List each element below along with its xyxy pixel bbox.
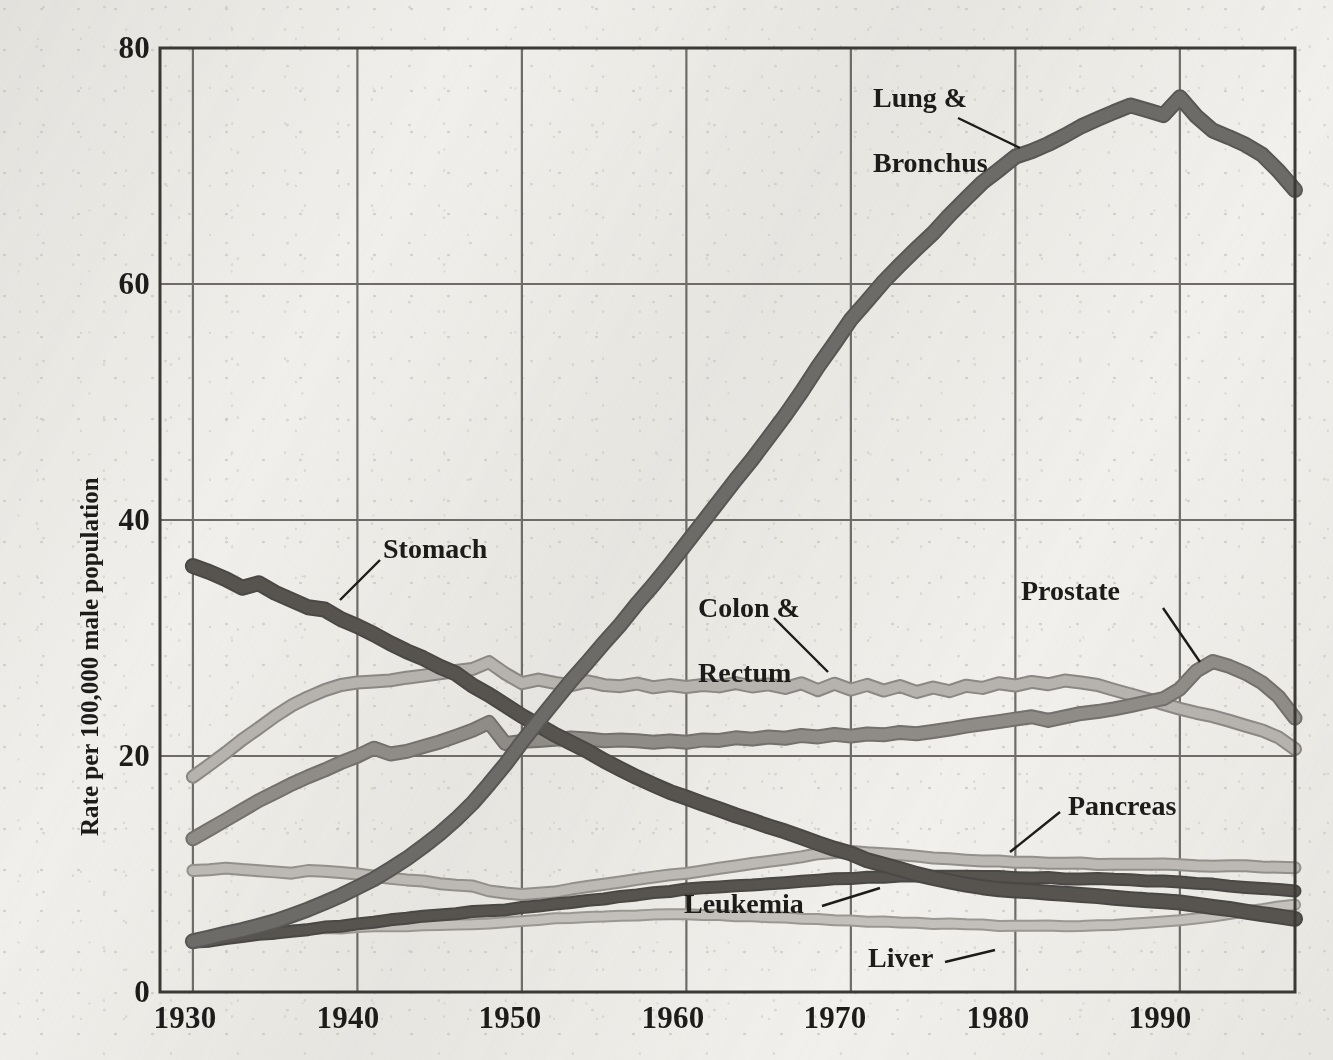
x-tick-1950: 1950 xyxy=(445,1000,575,1036)
series-label-pancreas: Pancreas xyxy=(1068,790,1176,822)
series-label-liver: Liver xyxy=(868,942,933,974)
y-tick-20: 20 xyxy=(60,738,150,774)
cancer-death-rate-line-chart: 80 60 40 20 0 1930 1940 1950 1960 1970 1… xyxy=(0,0,1333,1060)
x-tick-1930: 1930 xyxy=(120,1000,250,1036)
leader-prostate xyxy=(1163,608,1200,662)
x-tick-1980: 1980 xyxy=(933,1000,1063,1036)
x-tick-1990: 1990 xyxy=(1095,1000,1225,1036)
series-label-prostate: Prostate xyxy=(1021,575,1120,607)
x-tick-1940: 1940 xyxy=(283,1000,413,1036)
leader-liver xyxy=(945,950,995,962)
x-tick-1960: 1960 xyxy=(608,1000,738,1036)
gridlines-group xyxy=(160,48,1295,992)
leader-pancreas xyxy=(1010,812,1060,852)
x-tick-1970: 1970 xyxy=(770,1000,900,1036)
series-label-lung-bronchus: Lung & Bronchus xyxy=(845,50,988,212)
colon-rectum-line1: Colon & xyxy=(698,592,800,623)
series-label-leukemia: Leukemia xyxy=(684,888,804,920)
leader-stomach xyxy=(340,560,380,600)
series-label-stomach: Stomach xyxy=(383,533,487,565)
plot-canvas xyxy=(0,0,1333,1060)
y-tick-40: 40 xyxy=(60,502,150,538)
y-tick-80: 80 xyxy=(60,30,150,66)
y-tick-60: 60 xyxy=(60,266,150,302)
colon-rectum-line2: Rectum xyxy=(698,657,791,688)
series-label-colon-rectum: Colon & Rectum xyxy=(670,560,800,722)
lung-bronchus-line1: Lung & xyxy=(873,82,967,113)
y-axis-title: Rate per 100,000 male population xyxy=(76,477,104,836)
lung-bronchus-line2: Bronchus xyxy=(873,147,988,178)
